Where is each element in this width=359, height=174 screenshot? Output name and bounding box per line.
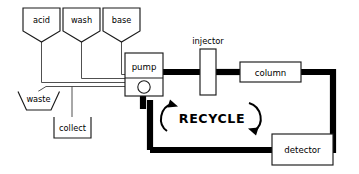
waste-label: waste	[26, 94, 50, 104]
process-flow-diagram: acid wash base pump injector column	[0, 0, 359, 174]
reservoir-base[interactable]: base	[103, 8, 140, 42]
component-injector[interactable]: injector	[192, 36, 224, 95]
recycle-annotation: RECYCLE	[161, 100, 261, 136]
recycle-arrow-left-head-icon	[168, 100, 179, 108]
injector-label: injector	[192, 36, 224, 46]
pump-rotor-icon	[138, 81, 150, 93]
component-detector[interactable]: detector	[272, 134, 333, 165]
column-label: column	[255, 68, 287, 78]
reservoir-acid[interactable]: acid	[23, 8, 60, 42]
recycle-arrow-left-arc	[161, 104, 172, 131]
reservoir-feed-lines	[42, 42, 126, 83]
recycle-arrow-right-head-icon	[248, 128, 259, 136]
collect-label: collect	[59, 123, 87, 133]
reservoir-wash[interactable]: wash	[63, 8, 100, 42]
detector-label: detector	[284, 145, 321, 155]
component-column[interactable]: column	[240, 62, 301, 82]
reservoir-wash-label: wash	[71, 15, 92, 25]
recycle-arrow-right-arc	[249, 103, 261, 131]
component-pump[interactable]: pump	[125, 53, 163, 96]
outlet-collect[interactable]: collect	[54, 117, 91, 138]
outlet-line-waste	[38, 87, 125, 92]
pump-label: pump	[132, 62, 157, 72]
reservoir-base-label: base	[112, 15, 132, 25]
feed-line-wash	[82, 42, 126, 79]
injector-box	[200, 49, 216, 95]
reservoir-acid-shape	[23, 8, 60, 42]
reservoir-wash-shape	[63, 8, 100, 42]
reservoir-base-shape	[103, 8, 140, 42]
feed-line-acid	[42, 42, 126, 83]
outlet-waste[interactable]: waste	[18, 92, 60, 111]
recycle-label: RECYCLE	[179, 111, 245, 126]
diagram-canvas: acid wash base pump injector column	[0, 0, 359, 174]
reservoir-acid-label: acid	[33, 15, 50, 25]
